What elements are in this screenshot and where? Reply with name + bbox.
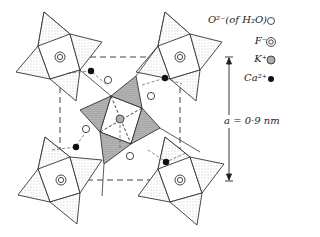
lattice-parameter-label: a = 0·9 nm [224, 115, 280, 126]
legend-label-water-oxygen: O²⁻(of H₂O) [208, 14, 267, 25]
legend-dotted-circle-icon [267, 56, 275, 64]
legend-filled-circle-icon [268, 76, 274, 82]
f-ion-bottom-right [175, 175, 185, 185]
f-ion-top-left [55, 52, 65, 62]
f-ion-top-right [175, 52, 185, 62]
f-ion-bottom-left [56, 175, 66, 185]
k-ion-center [116, 115, 124, 123]
legend-label-potassium: K⁺ [254, 53, 267, 64]
legend-label-fluoride: F⁻ [255, 35, 267, 46]
legend-double-ring-icon [267, 38, 276, 47]
legend-label-calcium: Ca²⁺ [244, 72, 267, 83]
legend-open-circle-icon [268, 18, 275, 25]
